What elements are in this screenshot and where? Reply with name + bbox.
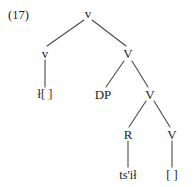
tree-edge [92, 20, 126, 46]
tree-node-big-v-2: V [145, 88, 154, 101]
tree-leaf-leaf-root: ts'ił [119, 169, 137, 182]
tree-leaf-leaf-voice: ł[ ] [38, 88, 53, 101]
tree-node-r: R [124, 128, 133, 141]
tree-edge [154, 101, 170, 127]
tree-edge [106, 61, 124, 87]
tree-leaf-leaf-empty: [ ] [166, 169, 177, 182]
tree-edge [132, 61, 148, 87]
tree-node-dp: DP [95, 88, 112, 101]
tree-node-big-v-1: V [123, 47, 132, 60]
tree-edge [47, 20, 84, 46]
tree-node-root-v: v [85, 7, 92, 20]
tree-edge [129, 101, 146, 127]
tree-node-spec-v: v [42, 47, 49, 60]
tree-node-big-v-3: V [167, 128, 176, 141]
syntax-tree-figure: (17) vvVł[ ]DPVRVts'ił[ ] [0, 0, 196, 187]
